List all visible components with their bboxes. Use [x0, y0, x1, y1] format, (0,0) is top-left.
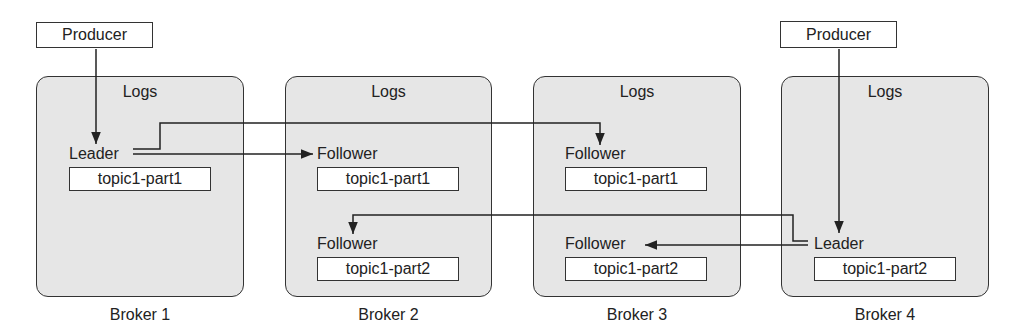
broker-4-leader-label: Leader	[814, 235, 864, 253]
broker-2-partition-part2: topic1-part2	[317, 257, 459, 281]
broker-1-logs-title: Logs	[36, 83, 244, 101]
broker-4-label: Broker 4	[781, 306, 989, 324]
producer-1-box: Producer	[36, 22, 153, 48]
broker-3-partition-part1: topic1-part1	[565, 167, 707, 191]
producer-2-box: Producer	[780, 21, 897, 48]
broker-3-partition-part2: topic1-part2	[565, 257, 707, 281]
broker-4-partition-part2: topic1-part2	[814, 257, 956, 281]
broker-1-partition-part1: topic1-part1	[69, 167, 211, 191]
broker-2-follower-part2-label: Follower	[317, 235, 377, 253]
broker-3-label: Broker 3	[533, 306, 741, 324]
broker-3-logs-title: Logs	[533, 83, 741, 101]
broker-3-follower-part2-label: Follower	[565, 235, 625, 253]
broker-1-leader-label: Leader	[69, 145, 119, 163]
broker-2-partition-part1: topic1-part1	[317, 167, 459, 191]
broker-1-label: Broker 1	[36, 306, 244, 324]
broker-2-follower-part1-label: Follower	[317, 145, 377, 163]
broker-2-label: Broker 2	[285, 306, 492, 324]
broker-3-follower-part1-label: Follower	[565, 145, 625, 163]
broker-2-logs-title: Logs	[285, 83, 492, 101]
broker-4-logs-title: Logs	[781, 83, 989, 101]
